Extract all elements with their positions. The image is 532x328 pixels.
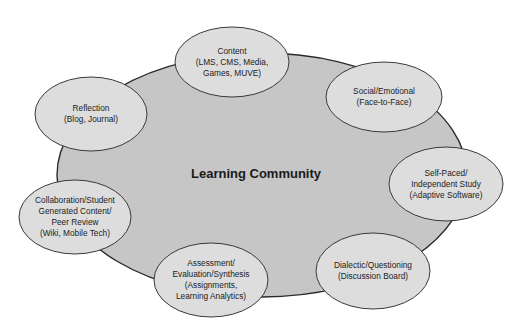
node-social-emotional-label: Social/Emotional(Face-to-Face) bbox=[353, 86, 415, 108]
node-label-line: Self-Paced/ bbox=[410, 168, 483, 179]
node-dialectic-label: Dialectic/Questioning(Discussion Board) bbox=[334, 260, 412, 282]
node-label-line: Generated Content/ bbox=[35, 206, 115, 217]
node-label-line: Content bbox=[196, 46, 268, 57]
node-label-line: Dialectic/Questioning bbox=[334, 260, 412, 271]
node-label-line: Evaluation/Synthesis bbox=[172, 269, 249, 280]
node-label-line: (Face-to-Face) bbox=[353, 97, 415, 108]
node-label-line: Peer Review bbox=[35, 217, 115, 228]
node-label-line: (Discussion Board) bbox=[334, 271, 412, 282]
node-label-line: (Wiki, Mobile Tech) bbox=[35, 228, 115, 239]
node-content-label: Content(LMS, CMS, Media,Games, MUVE) bbox=[196, 46, 268, 79]
node-label-line: Independent Study bbox=[410, 179, 483, 190]
node-label-line: (LMS, CMS, Media, bbox=[196, 57, 268, 68]
learning-community-title: Learning Community bbox=[191, 166, 321, 181]
node-label-line: Learning Analytics) bbox=[172, 291, 249, 302]
node-label-line: (Blog, Journal) bbox=[64, 114, 118, 125]
node-self-paced-label: Self-Paced/Independent Study(Adaptive So… bbox=[410, 168, 483, 201]
node-label-line: Collaboration/Student bbox=[35, 195, 115, 206]
node-label-line: (Adaptive Software) bbox=[410, 190, 483, 201]
node-label-line: (Assignments, bbox=[172, 280, 249, 291]
node-label-line: Games, MUVE) bbox=[196, 68, 268, 79]
node-label-line: Social/Emotional bbox=[353, 86, 415, 97]
node-reflection-label: Reflection(Blog, Journal) bbox=[64, 103, 118, 125]
node-collaboration-label: Collaboration/StudentGenerated Content/P… bbox=[35, 195, 115, 239]
node-assessment-label: Assessment/Evaluation/Synthesis(Assignme… bbox=[172, 258, 249, 302]
node-label-line: Assessment/ bbox=[172, 258, 249, 269]
node-label-line: Reflection bbox=[64, 103, 118, 114]
